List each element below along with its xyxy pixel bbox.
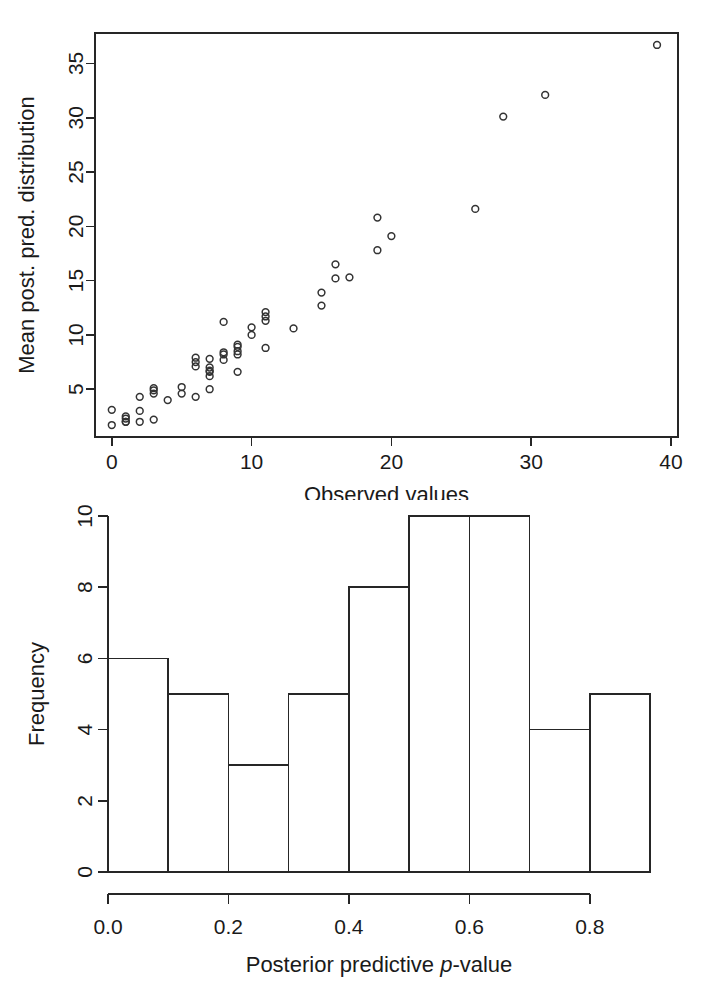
- histogram-x-tick-label: 0.6: [455, 915, 484, 938]
- histogram-y-tick-label: 10: [73, 504, 96, 527]
- scatter-point: [206, 386, 213, 393]
- scatter-point: [374, 247, 381, 254]
- scatter-x-tick-label: 10: [240, 450, 263, 473]
- histogram-bar: [228, 765, 288, 872]
- scatter-point: [234, 368, 241, 375]
- histogram-y-axis: 0246810: [73, 504, 108, 878]
- scatter-y-tick-label: 35: [64, 52, 87, 75]
- scatter-point: [500, 113, 507, 120]
- histogram-y-tick-label: 0: [73, 866, 96, 878]
- histogram-x-tick-label: 0.2: [214, 915, 243, 938]
- histogram-x-axis: 0.00.20.40.60.8: [93, 894, 604, 938]
- scatter-y-tick-label: 15: [64, 269, 87, 292]
- scatter-point: [206, 355, 213, 362]
- histogram-bar: [168, 694, 228, 872]
- histogram-x-tick-label: 0.4: [334, 915, 364, 938]
- scatter-point: [192, 363, 199, 370]
- histogram-x-tick-label: 0.8: [575, 915, 604, 938]
- scatter-point: [388, 233, 395, 240]
- scatter-y-axis-ticks: 5101520253035: [64, 52, 95, 395]
- scatter-point: [262, 345, 269, 352]
- scatter-point: [542, 92, 549, 99]
- histogram-bar: [469, 516, 529, 872]
- histogram-svg: 0246810 0.00.20.40.60.8 Posterior predic…: [0, 500, 709, 999]
- histogram-bar: [349, 587, 409, 872]
- histogram-bar: [530, 730, 590, 872]
- scatter-point: [654, 42, 661, 49]
- scatter-point: [262, 317, 269, 324]
- scatter-point: [332, 261, 339, 268]
- scatter-panel: 5101520253035 010203040 Observed values …: [0, 0, 709, 500]
- scatter-y-tick-label: 5: [64, 383, 87, 395]
- scatter-point-group: [108, 42, 660, 429]
- scatter-point: [164, 397, 171, 404]
- scatter-point: [332, 275, 339, 282]
- histogram-y-tick-label: 4: [73, 723, 96, 735]
- scatter-point: [150, 416, 157, 423]
- histogram-y-axis-title: Frequency: [24, 642, 49, 746]
- histogram-bar-group: [108, 516, 650, 872]
- scatter-y-tick-label: 25: [64, 160, 87, 183]
- histogram-y-tick-label: 2: [73, 795, 96, 807]
- histogram-bar: [590, 694, 650, 872]
- scatter-point: [318, 302, 325, 309]
- histogram-bar: [409, 516, 469, 872]
- scatter-x-axis-title: Observed values: [304, 482, 469, 500]
- scatter-plot-svg: 5101520253035 010203040 Observed values …: [0, 0, 709, 500]
- scatter-y-axis-title: Mean post. pred. distribution: [14, 96, 39, 374]
- histogram-bar: [108, 658, 168, 872]
- scatter-x-tick-label: 30: [520, 450, 543, 473]
- scatter-point: [108, 422, 115, 429]
- scatter-point: [248, 324, 255, 331]
- scatter-point: [374, 214, 381, 221]
- scatter-point: [248, 332, 255, 339]
- scatter-point: [136, 393, 143, 400]
- scatter-y-tick-label: 30: [64, 106, 87, 129]
- figure-page: 5101520253035 010203040 Observed values …: [0, 0, 709, 999]
- scatter-point: [346, 274, 353, 281]
- scatter-point: [136, 418, 143, 425]
- scatter-y-tick-label: 10: [64, 323, 87, 346]
- scatter-point: [136, 408, 143, 415]
- scatter-point: [318, 289, 325, 296]
- scatter-point: [192, 393, 199, 400]
- histogram-x-tick-label: 0.0: [93, 915, 122, 938]
- histogram-y-tick-label: 6: [73, 653, 96, 665]
- scatter-point: [472, 206, 479, 213]
- histogram-panel: 0246810 0.00.20.40.60.8 Posterior predic…: [0, 500, 709, 999]
- scatter-point: [220, 318, 227, 325]
- histogram-y-tick-label: 8: [73, 581, 96, 593]
- scatter-x-tick-label: 40: [659, 450, 682, 473]
- scatter-point: [290, 325, 297, 332]
- histogram-bar: [289, 694, 349, 872]
- scatter-point: [108, 406, 115, 413]
- scatter-y-tick-label: 20: [64, 215, 87, 238]
- histogram-x-axis-title: Posterior predictive p-value: [246, 952, 513, 977]
- scatter-x-tick-label: 20: [380, 450, 403, 473]
- scatter-plot-box: [95, 33, 678, 437]
- scatter-x-axis-ticks: 010203040: [106, 437, 683, 473]
- scatter-x-tick-label: 0: [106, 450, 118, 473]
